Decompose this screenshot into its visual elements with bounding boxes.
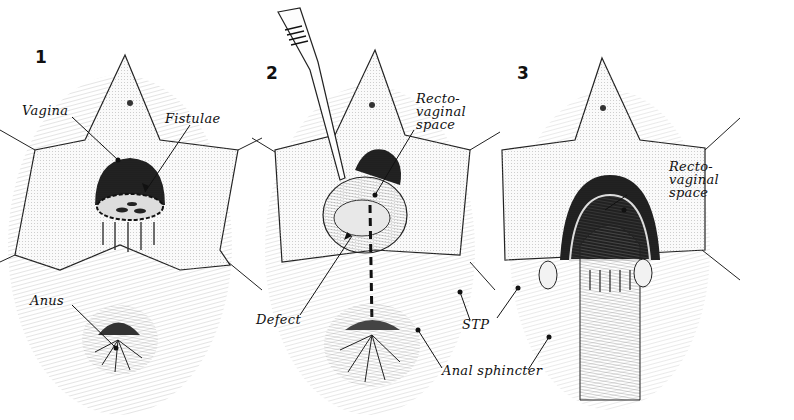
label-anal-sphincter: Anal sphincter — [442, 364, 542, 377]
label-anus: Anus — [30, 294, 64, 307]
label-defect: Defect — [256, 313, 301, 326]
label-rectovaginal-space-2: Recto- vaginal space — [416, 92, 466, 131]
figure: 1 2 3 Vagina Fistulae Anus Recto- vagina… — [0, 0, 794, 420]
panel-2-number: 2 — [266, 63, 278, 83]
panel-3 — [502, 58, 740, 410]
panel-3-sphincter-left — [539, 261, 557, 289]
panel-1-fistula-outline — [97, 194, 163, 220]
panel-3-urethra — [600, 105, 606, 111]
panel-1-fistula-a — [116, 208, 128, 213]
panel-2-urethra — [369, 102, 375, 108]
panel-1-fistula-b — [134, 209, 146, 214]
panel-1-fistula-c — [127, 202, 137, 206]
illustration — [0, 0, 794, 420]
panel-3-rectal-wall — [580, 225, 640, 400]
label-stp: STP — [462, 318, 489, 331]
panel-3-sphincter-right — [634, 259, 652, 287]
panel-2-anal-region — [324, 303, 420, 387]
label-vagina: Vagina — [22, 104, 68, 117]
panel-1-retraction-suture — [0, 130, 35, 150]
panel-3-number: 3 — [517, 63, 529, 83]
panel-1-number: 1 — [35, 47, 47, 67]
panel-1-anal-region — [82, 305, 158, 375]
panel-2-rectal-wall — [334, 200, 390, 236]
label-fistulae: Fistulae — [165, 112, 220, 125]
panel-1-urethra — [127, 100, 133, 106]
label-rectovaginal-space-3: Recto- vaginal space — [669, 160, 719, 199]
